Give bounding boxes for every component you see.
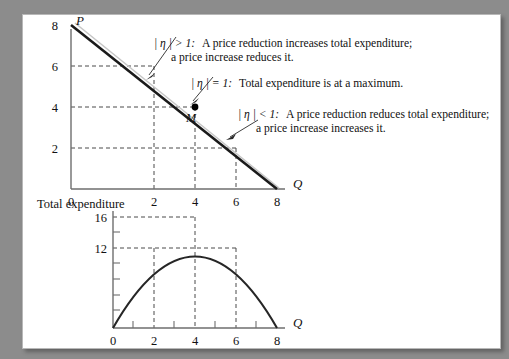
svg-text:| η | > 1: A price r: | η | > 1: A price reduction increases t… xyxy=(154,37,412,50)
exp-ytick-16-label: 16 xyxy=(95,211,108,225)
exp-xtick-0-label: 0 xyxy=(110,334,116,348)
expenditure-x-axis-label: Q xyxy=(293,315,303,330)
svg-text:| η | = 1: Total exp: | η | = 1: Total expenditure is at a max… xyxy=(191,77,403,90)
anno-unit-elastic-line1: Total expenditure is at a maximum. xyxy=(239,77,403,90)
leader-line-inelastic xyxy=(230,120,258,137)
annotation-elastic: | η | > 1: A price reduction increases t… xyxy=(154,37,412,64)
exp-xtick-8-label: 8 xyxy=(274,334,280,348)
annotation-unit-elastic: | η | = 1: Total expenditure is at a max… xyxy=(191,77,403,90)
demand-x-axis-label: Q xyxy=(293,176,303,191)
expenditure-guides xyxy=(113,217,236,328)
exp-xtick-2-label: 2 xyxy=(151,334,157,348)
exp-xtick-4-label: 4 xyxy=(192,334,199,348)
demand-xtick-8: 8 xyxy=(274,195,280,209)
annotation-inelastic: | η | < 1: A price reduction reduces tot… xyxy=(238,108,489,135)
point-m-label: M xyxy=(185,111,197,125)
expenditure-y-axis-label: Total expenditure xyxy=(37,197,125,211)
demand-xtick-2: 2 xyxy=(151,195,157,209)
anno-inelastic-symbol: | η | < 1: xyxy=(238,108,279,121)
anno-inelastic-line1: A price reduction reduces total expendit… xyxy=(286,108,489,121)
exp-ytick-12-label: 12 xyxy=(95,242,108,256)
svg-text:| η | < 1: A price r: | η | < 1: A price reduction reduces tot… xyxy=(238,108,489,121)
demand-y-axis-label: P xyxy=(75,15,84,28)
figure-panel: M 8 6 4 2 0 2 4 6 8 P Q xyxy=(22,14,501,349)
demand-ytick-4: 4 xyxy=(52,101,59,115)
leader-arrow-inelastic xyxy=(226,134,236,140)
demand-xtick-4: 4 xyxy=(192,195,199,209)
anno-elastic-line1: A price reduction increases total expend… xyxy=(202,37,412,50)
demand-xtick-6: 6 xyxy=(233,195,239,209)
demand-ytick-2: 2 xyxy=(52,142,58,156)
exp-xtick-6-label: 6 xyxy=(233,334,239,348)
point-m-marker xyxy=(192,104,199,111)
anno-elastic-symbol: | η | > 1: xyxy=(154,37,195,50)
figure-page: M 8 6 4 2 0 2 4 6 8 P Q xyxy=(0,0,509,359)
demand-ytick-6: 6 xyxy=(52,60,58,74)
expenditure-y-ticks xyxy=(113,232,120,310)
anno-inelastic-line2: a price increase increases it. xyxy=(256,122,386,135)
anno-unit-elastic-symbol: | η | = 1: xyxy=(191,77,232,90)
expenditure-chart: 16 12 0 2 4 6 8 Total expenditure Q xyxy=(37,197,303,348)
demand-ytick-8: 8 xyxy=(52,19,58,33)
anno-elastic-line2: a price increase reduces it. xyxy=(171,51,294,64)
economics-elasticity-figure: M 8 6 4 2 0 2 4 6 8 P Q xyxy=(23,15,500,348)
